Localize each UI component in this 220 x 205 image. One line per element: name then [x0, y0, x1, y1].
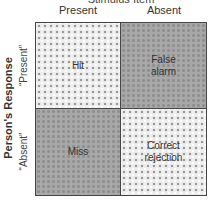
cell-false-alarm: False alarm — [121, 23, 206, 109]
cell-correct-rejection: Correct rejection — [121, 109, 206, 195]
cell-hit: Hit — [36, 23, 121, 109]
cell-false-alarm-label: False alarm — [144, 54, 184, 78]
row-label-present: “Present” — [18, 23, 29, 109]
row-label-absent: “Absent” — [18, 109, 29, 195]
outcome-matrix: Hit False alarm Miss Correct rejection — [35, 22, 207, 196]
column-label-absent: Absent — [121, 4, 207, 16]
column-label-present: Present — [35, 4, 121, 16]
cell-correct-rejection-label: Correct rejection — [139, 140, 189, 164]
cell-miss: Miss — [36, 109, 121, 195]
response-axis-label: Person's Response — [2, 22, 14, 194]
cell-miss-label: Miss — [68, 146, 89, 158]
cell-hit-label: Hit — [72, 60, 84, 72]
